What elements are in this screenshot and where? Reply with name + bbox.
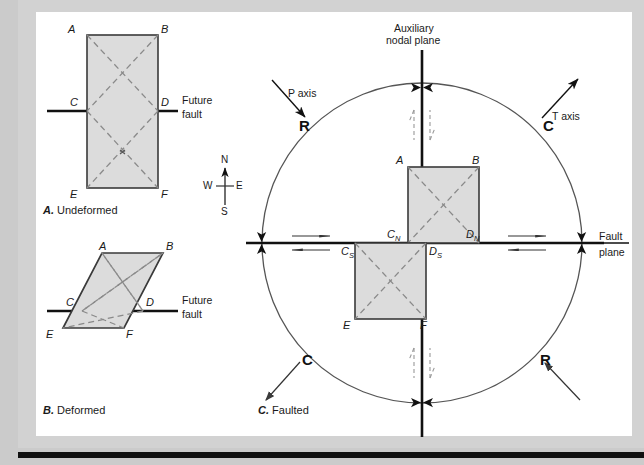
panel-b-caption: B. Deformed: [43, 404, 105, 416]
panel-c-caption-text: Faulted: [272, 404, 309, 416]
panel-c-label-CS-sub: S: [349, 251, 354, 260]
panel-c-caption-key: C.: [258, 404, 269, 416]
lower-left-extension-arrow: [266, 362, 300, 400]
compass-rose: [216, 168, 234, 205]
panel-c-caption: C. Faulted: [258, 404, 309, 416]
panel-a-label-F: F: [161, 188, 168, 200]
t-axis-label: T axis: [552, 110, 580, 122]
panel-b-label-E: E: [46, 328, 53, 340]
compass-south-label: S: [221, 206, 228, 217]
compass-east-label: E: [236, 180, 243, 191]
panel-c-label-CN-sub: N: [395, 234, 400, 243]
figure-vector-layer: [0, 0, 644, 465]
panel-a-future-fault-label-2: fault: [182, 108, 202, 120]
panel-a-label-C: C: [70, 96, 78, 108]
panel-c-label-DS: DS: [429, 245, 442, 260]
panel-a-label-B: B: [161, 23, 168, 35]
panel-c-diagram: [246, 50, 629, 437]
panel-a-caption-text: Undeformed: [57, 204, 118, 216]
panel-b-label-A: A: [99, 240, 106, 252]
panel-b-label-B: B: [166, 240, 173, 252]
panel-c-label-F: F: [420, 319, 427, 331]
panel-c-label-A: A: [396, 154, 403, 166]
panel-c-label-CN: CN: [387, 228, 400, 243]
panel-c-label-CS-base: C: [341, 245, 349, 257]
panel-a-caption: A. Undeformed: [43, 204, 118, 216]
panel-c-label-DN: DN: [466, 228, 479, 243]
panel-a-diagram: [47, 35, 178, 188]
quadrant-marker-lower-right: R: [540, 351, 551, 368]
panel-a-caption-key: A.: [43, 204, 54, 216]
panel-a-future-fault-label-1: Future: [182, 94, 212, 106]
panel-c-label-DN-base: D: [466, 228, 474, 240]
compass-north-label: N: [221, 154, 228, 165]
figure-root: A B C D E F Future fault A. Undeformed A…: [0, 0, 644, 465]
fault-plane-label-2: plane: [599, 246, 625, 258]
p-axis-label: P axis: [288, 87, 316, 99]
quadrant-marker-upper-right: C: [543, 117, 554, 134]
panel-c-label-E: E: [343, 319, 350, 331]
panel-b-label-F: F: [126, 328, 133, 340]
panel-b-future-fault-label-1: Future: [182, 294, 212, 306]
panel-b-diagram: [47, 253, 178, 328]
panel-b-caption-key: B.: [43, 404, 54, 416]
panel-b-label-D: D: [146, 296, 154, 308]
panel-a-label-E: E: [70, 188, 77, 200]
panel-b-caption-text: Deformed: [57, 404, 105, 416]
panel-c-label-DN-sub: N: [474, 234, 479, 243]
lower-right-compression-arrow: [545, 363, 580, 400]
panel-a-label-A: A: [68, 23, 75, 35]
panel-a-label-D: D: [161, 96, 169, 108]
quadrant-marker-upper-left: R: [299, 117, 310, 134]
auxiliary-nodal-plane-label-2: nodal plane: [386, 34, 440, 46]
panel-a-block: [87, 35, 158, 188]
panel-c-label-CS: CS: [341, 245, 354, 260]
panel-b-future-fault-label-2: fault: [182, 308, 202, 320]
fault-plane-label-1: Fault: [599, 230, 622, 242]
panel-c-label-B: B: [472, 154, 479, 166]
panel-b-label-C: C: [66, 296, 74, 308]
panel-c-label-CN-base: C: [387, 228, 395, 240]
panel-c-label-DS-base: D: [429, 245, 437, 257]
panel-c-label-DS-sub: S: [437, 251, 442, 260]
auxiliary-nodal-plane-label-1: Auxiliary: [394, 22, 434, 34]
compass-west-label: W: [203, 180, 212, 191]
quadrant-marker-lower-left: C: [302, 351, 313, 368]
